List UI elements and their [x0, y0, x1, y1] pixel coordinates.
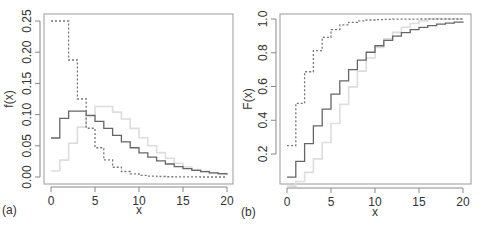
- y-tick-label: 0.2: [256, 145, 270, 162]
- series-solid-light: [51, 106, 227, 175]
- x-tick-label: 15: [412, 195, 426, 209]
- x-axis-label: x: [372, 205, 378, 219]
- plot-frame: [44, 14, 233, 184]
- panel-a-pmf: 05101520 0.000.050.100.150.200.25 x f(x)…: [2, 9, 234, 217]
- y-tick-label: 0.05: [20, 134, 34, 158]
- panel-label-a: (a): [2, 203, 17, 217]
- y-axis: 0.000.050.100.150.200.25: [20, 9, 40, 189]
- y-tick-label: 0.4: [256, 112, 270, 129]
- x-tick-label: 0: [48, 194, 55, 208]
- y-tick-label: 0.00: [20, 165, 34, 189]
- x-tick-label: 20: [220, 194, 234, 208]
- x-tick-label: 5: [92, 194, 99, 208]
- series-group: [287, 19, 463, 186]
- y-tick-label: 0.25: [20, 9, 34, 33]
- x-tick-label: 5: [328, 195, 335, 209]
- x-axis-label: x: [136, 203, 142, 217]
- y-tick-label: 1.0: [256, 10, 270, 27]
- series-solid-light: [287, 19, 463, 186]
- chart-canvas: 05101520 0.000.050.100.150.200.25 x f(x)…: [0, 0, 480, 231]
- series-dashed: [51, 21, 227, 177]
- y-tick-label: 0.8: [256, 44, 270, 61]
- panel-label-b: (b): [241, 205, 256, 219]
- y-tick-label: 0.10: [20, 103, 34, 127]
- x-tick-label: 0: [284, 195, 291, 209]
- y-axis-label: F(x): [241, 88, 255, 109]
- y-axis: 0.20.40.60.81.0: [256, 10, 276, 162]
- y-tick-label: 0.20: [20, 40, 34, 64]
- y-tick-label: 0.15: [20, 71, 34, 95]
- plot-frame: [280, 14, 471, 184]
- x-tick-label: 20: [456, 195, 470, 209]
- panel-b-cdf: 05101520 0.20.40.60.81.0 x F(x) (b): [241, 10, 471, 219]
- figure: 05101520 0.000.050.100.150.200.25 x f(x)…: [0, 0, 480, 231]
- series-solid-dark: [287, 21, 463, 177]
- y-tick-label: 0.6: [256, 78, 270, 95]
- series-group: [51, 21, 227, 177]
- y-axis-label: f(x): [2, 90, 16, 107]
- x-tick-label: 15: [176, 194, 190, 208]
